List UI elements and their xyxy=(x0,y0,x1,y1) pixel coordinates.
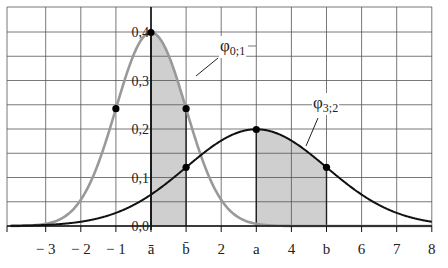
x-tick-label: ā xyxy=(148,241,155,257)
y-tick-label: 0,0 xyxy=(132,219,150,234)
data-point xyxy=(323,164,330,171)
x-tick-label: − 1 xyxy=(106,241,126,257)
label-leader-line xyxy=(196,58,218,76)
x-tick-label: 2 xyxy=(217,241,225,257)
x-tick-label: b xyxy=(323,241,331,257)
data-point xyxy=(183,164,190,171)
label-leader-line xyxy=(306,118,318,146)
tick-labels: − 3− 2− 1āb̄2a4b6780,00,10,20,30,4 xyxy=(36,25,436,257)
x-tick-label: 8 xyxy=(428,241,436,257)
chart-canvas: − 3− 2− 1āb̄2a4b6780,00,10,20,30,4 φ0;1φ… xyxy=(0,0,448,268)
x-tick-label: a xyxy=(253,241,260,257)
normal-distribution-chart: − 3− 2− 1āb̄2a4b6780,00,10,20,30,4 φ0;1φ… xyxy=(0,0,448,268)
y-tick-label: 0,3 xyxy=(132,74,150,89)
curve-label-subscript: 0;1 xyxy=(230,44,245,58)
data-point xyxy=(147,29,154,36)
x-tick-label: 7 xyxy=(393,241,401,257)
x-tick-label: 4 xyxy=(288,241,296,257)
y-tick-label: 0,2 xyxy=(132,122,150,137)
x-tick-label: − 2 xyxy=(71,241,91,257)
y-tick-label: 0,1 xyxy=(132,171,150,186)
data-point xyxy=(253,126,260,133)
y-tick-label: 0,4 xyxy=(132,25,150,40)
curve-label-subscript: 3;2 xyxy=(323,101,338,115)
x-tick-label: 6 xyxy=(358,241,366,257)
x-tick-label: − 3 xyxy=(36,241,56,257)
x-tick-label: b̄ xyxy=(182,241,190,257)
data-point xyxy=(112,105,119,112)
data-point xyxy=(183,105,190,112)
